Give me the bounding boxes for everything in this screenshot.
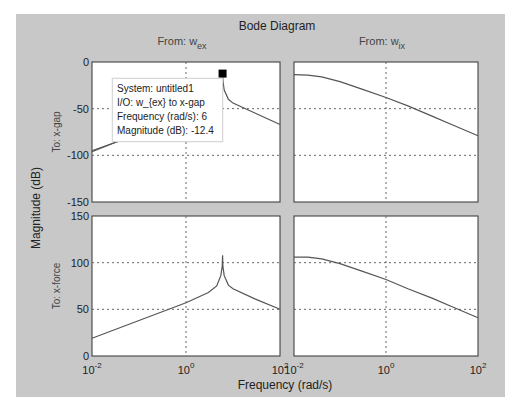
y-tick-label: -150 xyxy=(67,196,89,208)
data-tip-system: System: untitled1 xyxy=(117,82,218,96)
x-tick-exponent: 0 xyxy=(390,361,395,370)
y-tick-label: 100 xyxy=(71,257,89,269)
column-label: From: wex xyxy=(157,35,207,51)
y-tick-label: 50 xyxy=(77,303,89,315)
row-label: To: x-gap xyxy=(51,111,62,153)
data-tip-marker xyxy=(219,70,227,78)
chart-title: Bode Diagram xyxy=(239,19,316,33)
y-tick-label: 150 xyxy=(71,210,89,222)
data-tip-frequency: Frequency (rad/s): 6 xyxy=(117,110,218,124)
column-label-subscript: ix xyxy=(399,41,406,51)
x-tick-exponent: -2 xyxy=(95,361,103,370)
data-tip[interactable]: System: untitled1 I/O: w_{ex} to x-gap F… xyxy=(112,78,223,142)
x-tick-label: 10-2 xyxy=(284,361,304,376)
y-tick-label: -100 xyxy=(67,149,89,161)
y-tick-label: 0 xyxy=(83,56,89,68)
x-tick-label: 102 xyxy=(470,361,487,376)
data-tip-magnitude: Magnitude (dB): -12.4 xyxy=(117,124,218,138)
data-tip-io: I/O: w_{ex} to x-gap xyxy=(117,96,218,110)
row-label: To: x-force xyxy=(51,262,62,309)
x-tick-label: 100 xyxy=(178,361,195,376)
x-axis-label: Frequency (rad/s) xyxy=(238,378,333,392)
x-tick-exponent: 0 xyxy=(190,361,195,370)
y-axis-label: Magnitude (dB) xyxy=(29,167,43,249)
x-tick-exponent: -2 xyxy=(297,361,305,370)
y-tick-label: 0 xyxy=(83,350,89,362)
x-tick-label: 100 xyxy=(378,361,395,376)
y-tick-label: -50 xyxy=(73,103,89,115)
x-tick-exponent: 2 xyxy=(482,361,487,370)
column-label-subscript: ex xyxy=(197,41,207,51)
x-tick-label: 10-2 xyxy=(82,361,102,376)
bode-plot: Bode Diagram Frequency (rad/s) Magnitude… xyxy=(0,0,520,412)
column-label: From: wix xyxy=(359,35,406,51)
